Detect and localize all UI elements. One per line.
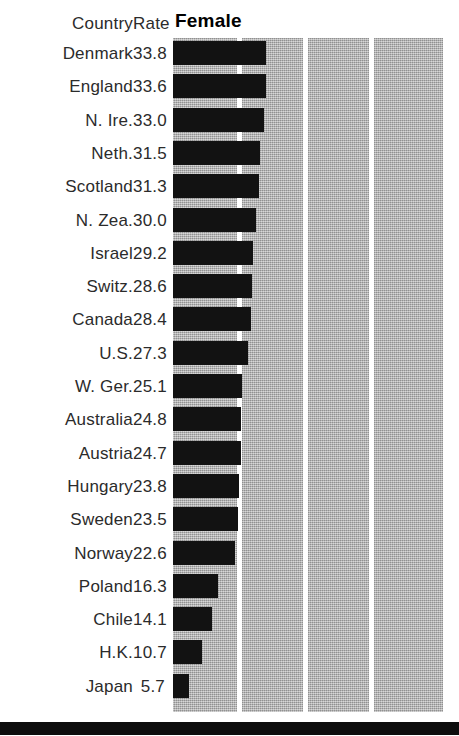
gridline-1 — [303, 38, 308, 712]
bar — [173, 541, 235, 565]
bar — [173, 274, 252, 298]
row-value: 33.6 — [133, 77, 165, 97]
row-value: 24.8 — [133, 410, 165, 430]
row-value: 23.8 — [133, 477, 165, 497]
row-value: 23.5 — [133, 510, 165, 530]
bar — [173, 607, 212, 631]
row-value: 31.5 — [133, 144, 165, 164]
row-value: 27.3 — [133, 344, 165, 364]
row-label: U.S. — [0, 344, 133, 364]
row-label: Sweden — [0, 510, 133, 530]
row-label: Norway — [0, 544, 133, 564]
row-value: 33.0 — [133, 111, 165, 131]
bar — [173, 374, 242, 398]
bar — [173, 241, 253, 265]
bar — [173, 574, 218, 598]
row-value: 16.3 — [133, 577, 165, 597]
row-label: Hungary — [0, 477, 133, 497]
row-value: 25.1 — [133, 377, 165, 397]
row-value: 31.3 — [133, 177, 165, 197]
row-value: 10.7 — [133, 643, 165, 663]
row-label: W. Ger. — [0, 377, 133, 397]
row-value: 5.7 — [133, 677, 165, 697]
bar — [173, 341, 248, 365]
bar — [173, 174, 259, 198]
row-label: Austria — [0, 444, 133, 464]
row-label: N. Zea. — [0, 211, 133, 231]
row-value: 33.8 — [133, 44, 165, 64]
bar — [173, 41, 266, 65]
row-label: Denmark — [0, 44, 133, 64]
bar — [173, 407, 241, 431]
row-value: 30.0 — [133, 211, 165, 231]
bar — [173, 108, 264, 132]
bar — [173, 208, 256, 232]
bar — [173, 74, 266, 98]
column-header-rate: Rate — [133, 14, 165, 34]
row-value: 22.6 — [133, 544, 165, 564]
chart-title: Female — [175, 10, 242, 32]
row-label: Poland — [0, 577, 133, 597]
row-label: Australia — [0, 410, 133, 430]
bar — [173, 141, 260, 165]
row-label: Israel — [0, 244, 133, 264]
row-label: H.K. — [0, 643, 133, 663]
bar — [173, 640, 202, 664]
row-value: 24.7 — [133, 444, 165, 464]
bar — [173, 307, 251, 331]
row-label: Neth. — [0, 144, 133, 164]
bar — [173, 441, 241, 465]
bar — [173, 507, 238, 531]
row-value: 14.1 — [133, 610, 165, 630]
bar — [173, 674, 189, 698]
gridline-2 — [369, 38, 374, 712]
row-label: N. Ire. — [0, 111, 133, 131]
row-label: Japan — [0, 677, 133, 697]
row-label: Switz. — [0, 277, 133, 297]
row-value: 28.4 — [133, 310, 165, 330]
row-label: Chile — [0, 610, 133, 630]
row-label: Scotland — [0, 177, 133, 197]
column-header-country: Country — [0, 14, 133, 34]
row-label: Canada — [0, 310, 133, 330]
row-value: 29.2 — [133, 244, 165, 264]
row-value: 28.6 — [133, 277, 165, 297]
bottom-rule — [0, 722, 459, 735]
bar — [173, 474, 239, 498]
row-label: England — [0, 77, 133, 97]
bar-chart: Country Rate Female Denmark33.8England33… — [0, 0, 459, 736]
